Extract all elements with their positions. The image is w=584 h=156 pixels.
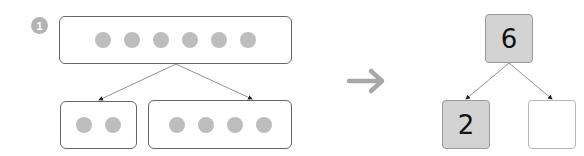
part-dot-group-right <box>148 100 292 149</box>
bond-whole-box: 6 <box>485 14 533 63</box>
dot <box>169 117 185 133</box>
dot <box>240 32 256 48</box>
part-dot-group-left <box>60 101 137 149</box>
whole-dot-group <box>59 16 292 64</box>
dot <box>182 32 198 48</box>
dot <box>95 32 111 48</box>
dot <box>124 32 140 48</box>
dot <box>256 117 272 133</box>
bond-part-right-answer-box[interactable] <box>528 100 576 149</box>
dot <box>76 117 92 133</box>
bond-part-left-box: 2 <box>442 100 490 149</box>
dot <box>153 32 169 48</box>
dot <box>105 117 121 133</box>
dot <box>211 32 227 48</box>
right-arrow-icon <box>349 71 382 91</box>
dot <box>198 117 214 133</box>
dot <box>227 117 243 133</box>
problem-number-badge: 1 <box>31 17 48 34</box>
